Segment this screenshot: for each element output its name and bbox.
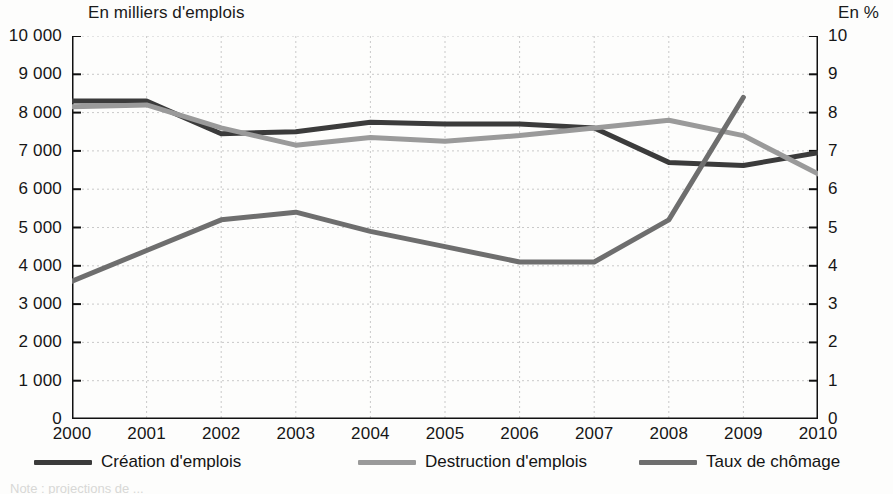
left-axis-tick-label: 3 000 xyxy=(18,294,62,314)
legend-swatch-icon xyxy=(639,460,697,465)
x-axis-tick-label: 2010 xyxy=(799,424,838,444)
legend-label: Taux de chômage xyxy=(706,452,840,472)
x-axis-tick-label: 2007 xyxy=(575,424,614,444)
legend-swatch-icon xyxy=(34,460,92,465)
left-axis-tick-label: 6 000 xyxy=(18,179,62,199)
left-axis-tick-label: 5 000 xyxy=(18,218,62,238)
right-axis-tick-label: 1 xyxy=(828,371,838,391)
legend-swatch-icon xyxy=(358,460,416,465)
right-axis-tick-label: 8 xyxy=(828,103,838,123)
legend-item[interactable]: Destruction d'emplois xyxy=(358,452,587,472)
x-axis-tick-label: 2002 xyxy=(202,424,241,444)
legend-item[interactable]: Taux de chômage xyxy=(639,452,840,472)
right-axis-tick-label: 10 xyxy=(828,26,847,46)
x-axis-tick-label: 2008 xyxy=(649,424,688,444)
right-axis-caption: En % xyxy=(838,3,879,23)
left-axis-tick-label: 2 000 xyxy=(18,332,62,352)
right-axis-tick-label: 6 xyxy=(828,179,838,199)
right-axis-tick-label: 7 xyxy=(828,141,838,161)
x-axis-tick-label: 2000 xyxy=(53,424,92,444)
right-axis-tick-label: 4 xyxy=(828,256,838,276)
chart-figure: En milliers d'emplois En % 01 0002 0003 … xyxy=(0,0,893,494)
left-axis-caption: En milliers d'emplois xyxy=(88,3,245,23)
left-axis-tick-label: 1 000 xyxy=(18,371,62,391)
x-axis-tick-label: 2004 xyxy=(351,424,390,444)
chart-legend: Création d'emploisDestruction d'emploisT… xyxy=(0,452,893,478)
right-axis-tick-label: 5 xyxy=(828,218,838,238)
left-axis-tick-labels: 01 0002 0003 0004 0005 0006 0007 0008 00… xyxy=(0,36,62,419)
x-axis-tick-label: 2006 xyxy=(500,424,539,444)
legend-label: Destruction d'emplois xyxy=(425,452,587,472)
x-axis-tick-label: 2003 xyxy=(276,424,315,444)
plot-area xyxy=(72,36,818,419)
right-axis-tick-label: 3 xyxy=(828,294,838,314)
right-axis-tick-label: 2 xyxy=(828,332,838,352)
left-axis-tick-label: 10 000 xyxy=(9,26,62,46)
legend-label: Création d'emplois xyxy=(101,452,241,472)
left-axis-tick-label: 7 000 xyxy=(18,141,62,161)
left-axis-tick-label: 4 000 xyxy=(18,256,62,276)
x-axis-tick-label: 2009 xyxy=(724,424,763,444)
right-axis-tick-label: 9 xyxy=(828,64,838,84)
left-axis-tick-label: 9 000 xyxy=(18,64,62,84)
left-axis-tick-label: 8 000 xyxy=(18,103,62,123)
x-axis-tick-label: 2001 xyxy=(127,424,166,444)
plot-svg xyxy=(72,36,818,419)
right-axis-tick-labels: 012345678910 xyxy=(828,36,888,419)
footnote-text: Note : projections de ... xyxy=(10,481,144,494)
x-axis-tick-labels: 2000200120022003200420052006200720082009… xyxy=(72,424,818,448)
x-axis-tick-label: 2005 xyxy=(426,424,465,444)
legend-item[interactable]: Création d'emplois xyxy=(34,452,241,472)
